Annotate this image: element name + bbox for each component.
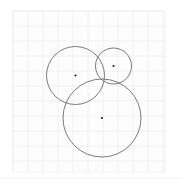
center-upper-left — [74, 74, 76, 76]
plot-area-background — [13, 11, 165, 172]
tangent-circles-figure — [0, 0, 182, 186]
center-top-right — [112, 65, 114, 67]
figure-root — [0, 0, 182, 186]
center-bottom — [101, 117, 103, 119]
